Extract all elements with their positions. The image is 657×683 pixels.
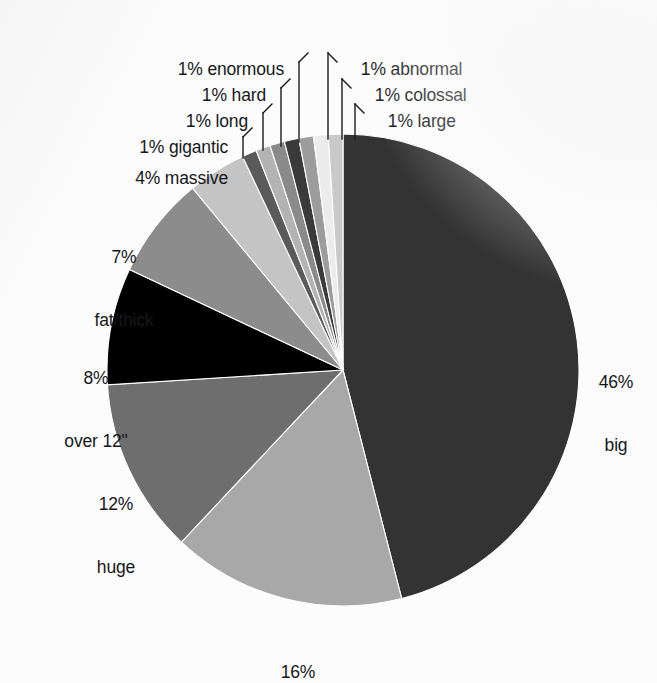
slice-label-monster: 16% monster <box>228 620 368 683</box>
leader-line-abnormal <box>328 53 337 62</box>
slice-label-massive-text: 4% massive <box>135 168 228 188</box>
slice-label-big-name: big <box>581 435 651 456</box>
slice-label-big-pct: 46% <box>581 372 651 393</box>
slice-label-over-12-pct: 8% <box>30 368 162 389</box>
slice-label-huge: 12% huge <box>61 452 171 620</box>
leader-line-enormous <box>299 53 308 62</box>
slice-label-massive: 4% massive <box>46 147 228 210</box>
slice-label-monster-pct: 16% <box>228 662 368 683</box>
pie-chart-figure: 1% enormous 1% abnormal 1% hard 1% colos… <box>0 0 657 683</box>
slice-label-huge-pct: 12% <box>61 494 171 515</box>
slice-label-large: 1% large <box>369 90 559 153</box>
slice-label-big: 46% big <box>581 330 651 498</box>
slice-label-over-12-name: over 12" <box>30 431 162 452</box>
slice-label-fat-thick-pct: 7% <box>58 247 190 268</box>
slice-label-huge-name: huge <box>61 557 171 578</box>
slice-label-large-text: 1% large <box>388 111 456 131</box>
